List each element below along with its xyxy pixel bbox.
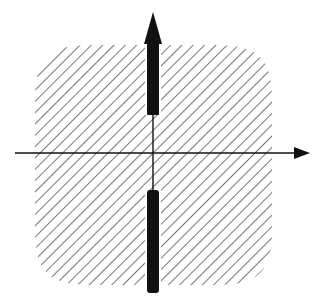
- arrowhead-up-icon: [144, 12, 162, 44]
- diagram-canvas: [0, 0, 318, 302]
- lower-bar: [147, 190, 159, 293]
- axis-arrowhead-right-icon: [294, 147, 310, 159]
